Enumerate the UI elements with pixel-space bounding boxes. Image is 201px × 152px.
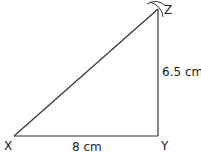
vertex-label-x: X [4, 140, 12, 152]
side-xz [14, 9, 158, 136]
vertex-label-y: Y [161, 140, 168, 152]
vertex-label-z: Z [164, 4, 172, 16]
side-label-yz: 6.5 cm [162, 66, 201, 78]
side-label-xy: 8 cm [72, 141, 102, 152]
